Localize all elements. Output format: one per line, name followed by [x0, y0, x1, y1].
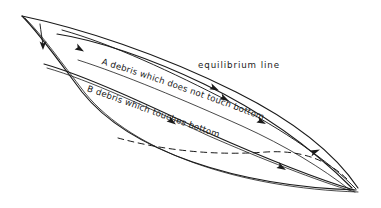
equilibrium-line-group	[62, 30, 356, 189]
equilibrium-label: equilibrium line	[198, 60, 280, 70]
envelope-lower-edge-parallel	[25, 18, 358, 192]
debris-path-diagram: A debris which does not touch bottom B d…	[0, 0, 381, 208]
left-apex-arrow-shaft	[40, 24, 43, 45]
diagram-canvas: A debris which does not touch bottom B d…	[0, 0, 381, 208]
dashed-return-arrowhead-icon	[310, 150, 320, 157]
equilibrium-line-path	[62, 30, 356, 189]
envelope-upper-edge	[22, 16, 358, 188]
outer-envelope-group	[22, 16, 358, 192]
